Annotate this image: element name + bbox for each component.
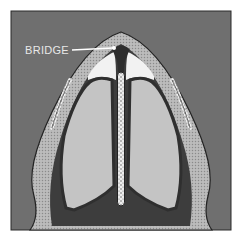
bridge-leader-dot (112, 46, 116, 50)
nose-cross-section-diagram (0, 0, 241, 239)
diagram-canvas: BRIDGE (0, 0, 241, 239)
septum (118, 72, 125, 206)
bridge-label: BRIDGE (25, 44, 69, 56)
